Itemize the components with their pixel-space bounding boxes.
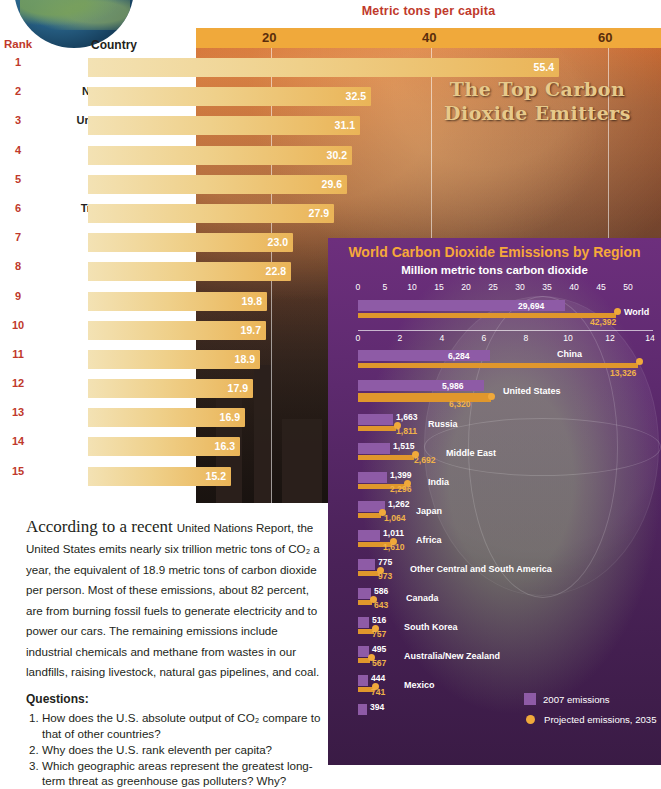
tick-20: 20 bbox=[461, 282, 471, 292]
bar-partial-2007 bbox=[358, 704, 367, 715]
inset-axis-second: 0 2 4 6 8 10 12 14 bbox=[328, 333, 661, 345]
rank-value: 4 bbox=[0, 144, 36, 156]
inset-chart-panel: World Carbon Dioxide Emissions by Region… bbox=[328, 238, 661, 765]
bar-value: 42,392 bbox=[590, 317, 616, 327]
category-label: South Korea bbox=[404, 622, 458, 632]
bar-value: 13,326 bbox=[610, 368, 636, 378]
legend-label: Projected emissions, 2035 bbox=[544, 714, 657, 725]
bar-other-americas-2007 bbox=[358, 559, 375, 570]
category-label: Canada bbox=[406, 593, 439, 603]
rank-value: 8 bbox=[0, 260, 36, 272]
tick-30: 30 bbox=[515, 282, 525, 292]
bar-value: 1,663 bbox=[396, 412, 418, 422]
bar-value: 1,515 bbox=[393, 441, 415, 451]
category-label: Russia bbox=[428, 419, 458, 429]
bar: 17.9 bbox=[88, 379, 253, 398]
bar-value: 2,692 bbox=[414, 455, 436, 465]
category-label: Japan bbox=[416, 506, 442, 516]
bar-russia-2007 bbox=[358, 414, 393, 425]
bar-value: 55.4 bbox=[534, 61, 554, 73]
inset-title: World Carbon Dioxide Emissions by Region bbox=[328, 244, 661, 260]
bar: 30.2 bbox=[88, 146, 352, 165]
rank-value: 12 bbox=[0, 377, 36, 389]
tick-0: 0 bbox=[356, 282, 361, 292]
bar-middle-east-2007 bbox=[358, 443, 390, 454]
tick2-2: 2 bbox=[398, 333, 403, 343]
bar: 22.8 bbox=[88, 262, 291, 281]
bar-value: 1,064 bbox=[384, 513, 406, 523]
bar-value: 19.8 bbox=[242, 295, 262, 307]
bar-japan-2035 bbox=[358, 513, 381, 518]
bar-value: 1,262 bbox=[388, 499, 410, 509]
bar-africa-2007 bbox=[358, 530, 380, 541]
bar: 32.5 bbox=[88, 87, 371, 106]
tick-5: 5 bbox=[383, 282, 388, 292]
bar-china-2035 bbox=[358, 363, 638, 368]
bar: 19.8 bbox=[88, 292, 267, 311]
legend-item-2035: Projected emissions, 2035 bbox=[524, 714, 657, 725]
bar-value: 1,811 bbox=[396, 426, 417, 436]
bar-value: 2,296 bbox=[390, 484, 412, 494]
bar: 16.3 bbox=[88, 437, 240, 456]
bar-value: 444 bbox=[371, 673, 385, 683]
column-header-country: Country bbox=[40, 38, 188, 52]
tick2-10: 10 bbox=[563, 333, 573, 343]
legend-swatch-square bbox=[524, 693, 536, 705]
bar: 19.7 bbox=[88, 321, 266, 340]
bar: 31.1 bbox=[88, 116, 360, 135]
bar-value: 394 bbox=[370, 702, 384, 712]
bar-value: 6,320 bbox=[449, 399, 471, 409]
bar-us-2035 bbox=[358, 393, 491, 402]
bar-value: 5,986 bbox=[442, 381, 464, 391]
list-item: Why does the U.S. rank eleventh per capi… bbox=[42, 742, 326, 757]
inset-subtitle: Million metric tons carbon dioxide bbox=[328, 264, 661, 276]
bar-value: 516 bbox=[372, 615, 386, 625]
bar-value: 643 bbox=[374, 600, 388, 610]
article-text: According to a recent United Nations Rep… bbox=[26, 516, 326, 789]
article-paragraph: United Nations Report, the United States… bbox=[26, 521, 320, 678]
bar: 18.9 bbox=[88, 350, 260, 369]
bar-value: 22.8 bbox=[266, 265, 286, 277]
chart-headline: The Top Carbon Dioxide Emitters bbox=[430, 78, 645, 126]
bar-value: 741 bbox=[371, 687, 385, 697]
questions-title: Questions: bbox=[26, 692, 326, 708]
list-item: Which geographic areas represent the gre… bbox=[42, 758, 326, 788]
bar-mexico-2007 bbox=[358, 675, 368, 686]
category-label: China bbox=[557, 349, 582, 359]
category-label: India bbox=[428, 477, 449, 487]
bar-other-americas-2035 bbox=[358, 571, 379, 576]
bar: 27.9 bbox=[88, 204, 334, 223]
main-axis-band: 20 40 60 bbox=[196, 28, 661, 48]
table-row: 6 Trinidad and Tobago 27.9 bbox=[0, 202, 661, 231]
tick-10: 10 bbox=[407, 282, 417, 292]
rank-value: 15 bbox=[0, 465, 36, 477]
bar-value: 775 bbox=[378, 557, 392, 567]
bar-value: 30.2 bbox=[327, 149, 347, 161]
dot-marker bbox=[636, 358, 643, 365]
article-body: According to a recent United Nations Rep… bbox=[26, 516, 326, 682]
tick-25: 25 bbox=[488, 282, 498, 292]
rank-value: 9 bbox=[0, 290, 36, 302]
legend-item-2007: 2007 emissions bbox=[524, 693, 657, 705]
axis-tick-20: 20 bbox=[262, 30, 276, 45]
category-label: Australia/New Zealand bbox=[404, 651, 500, 661]
tick-40: 40 bbox=[569, 282, 579, 292]
rank-value: 6 bbox=[0, 202, 36, 214]
tick2-4: 4 bbox=[440, 333, 445, 343]
category-label: Middle East bbox=[446, 448, 496, 458]
category-label: United States bbox=[503, 386, 561, 396]
bar-value: 567 bbox=[372, 658, 386, 668]
bar-value: 31.1 bbox=[335, 119, 355, 131]
rank-value: 11 bbox=[0, 348, 36, 360]
bar: 23.0 bbox=[88, 233, 293, 252]
bar-us-2007 bbox=[358, 380, 484, 391]
bar-world-2035 bbox=[358, 313, 616, 318]
bar-value: 29,694 bbox=[518, 301, 544, 311]
bar-value: 6,284 bbox=[448, 351, 470, 361]
bar-value: 19.7 bbox=[241, 324, 261, 336]
tick2-0: 0 bbox=[356, 333, 361, 343]
tick-35: 35 bbox=[542, 282, 552, 292]
list-item: How does the U.S. absolute output of CO₂… bbox=[42, 710, 326, 740]
bar: 55.4 bbox=[88, 58, 559, 77]
rank-value: 5 bbox=[0, 173, 36, 185]
